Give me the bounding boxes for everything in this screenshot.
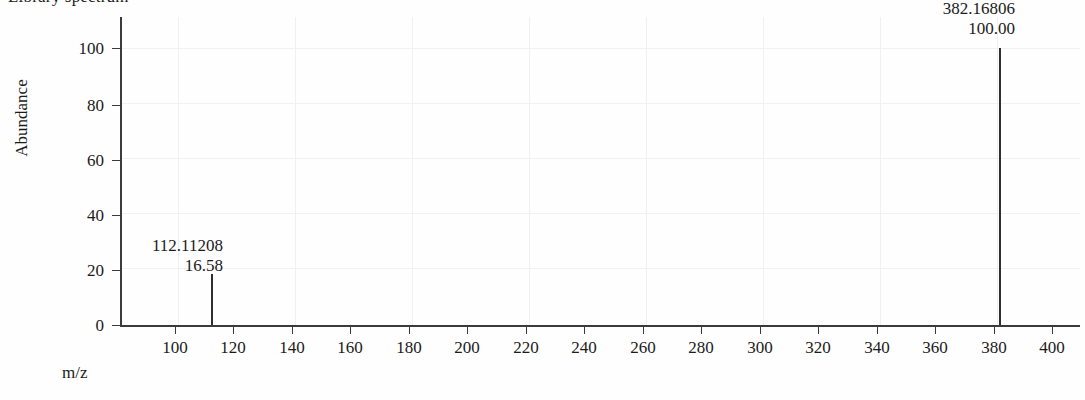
peak-mz-value: 112.11208 bbox=[108, 236, 223, 256]
y-axis-tick-label: 40 bbox=[44, 206, 104, 226]
x-axis-tick-label: 220 bbox=[496, 338, 556, 358]
x-axis-tick-label: 140 bbox=[262, 338, 322, 358]
x-axis-tick bbox=[935, 326, 936, 334]
gridline-vertical bbox=[529, 17, 530, 325]
y-axis-line bbox=[120, 17, 122, 326]
x-axis-tick-label: 200 bbox=[437, 338, 497, 358]
gridline-vertical bbox=[178, 17, 179, 325]
y-axis-tick bbox=[112, 48, 121, 49]
gridline-vertical bbox=[880, 17, 881, 325]
peak-intensity-value: 100.00 bbox=[900, 19, 1015, 39]
y-axis-tick-label: 0 bbox=[44, 316, 104, 336]
x-axis-tick-label: 280 bbox=[671, 338, 731, 358]
peak-stem bbox=[999, 48, 1001, 325]
x-axis-tick bbox=[233, 326, 234, 334]
gridline-vertical bbox=[295, 17, 296, 325]
gridline-horizontal bbox=[120, 103, 1080, 104]
y-axis-tick-label: 100 bbox=[44, 39, 104, 59]
x-axis-tick bbox=[994, 326, 995, 334]
page-title: Library spectrum bbox=[8, 0, 129, 7]
y-axis-tick-label: 60 bbox=[44, 151, 104, 171]
gridline-vertical bbox=[997, 17, 998, 325]
x-axis-tick-label: 320 bbox=[788, 338, 848, 358]
y-axis-tick bbox=[112, 160, 121, 161]
x-axis-tick bbox=[467, 326, 468, 334]
gridline-horizontal bbox=[120, 48, 1080, 49]
x-axis-tick bbox=[877, 326, 878, 334]
gridline-vertical bbox=[646, 17, 647, 325]
y-axis-tick bbox=[112, 325, 121, 326]
gridline-vertical bbox=[412, 17, 413, 325]
peak-label: 112.11208 16.58 bbox=[108, 236, 223, 276]
x-axis-tick-label: 400 bbox=[1022, 338, 1082, 358]
x-axis-tick-label: 160 bbox=[320, 338, 380, 358]
y-axis-tick-label: 20 bbox=[44, 261, 104, 281]
mass-spectrum-figure: Library spectrum 0 20 40 60 80 100 bbox=[0, 0, 1085, 400]
x-axis-tick bbox=[292, 326, 293, 334]
x-axis-tick-label: 240 bbox=[554, 338, 614, 358]
x-axis-tick bbox=[175, 326, 176, 334]
gridline-horizontal bbox=[120, 268, 1080, 269]
x-axis-tick bbox=[760, 326, 761, 334]
x-axis-tick-label: 120 bbox=[203, 338, 263, 358]
x-axis-tick bbox=[643, 326, 644, 334]
x-axis-tick-label: 360 bbox=[905, 338, 965, 358]
x-axis-tick bbox=[526, 326, 527, 334]
x-axis-tick-label: 340 bbox=[847, 338, 907, 358]
y-axis-tick-label: 80 bbox=[44, 96, 104, 116]
gridline-horizontal bbox=[120, 158, 1080, 159]
plot-area bbox=[120, 17, 1080, 325]
x-axis-tick bbox=[409, 326, 410, 334]
gridline-vertical bbox=[763, 17, 764, 325]
y-axis-tick bbox=[112, 215, 121, 216]
y-axis-tick bbox=[112, 105, 121, 106]
x-axis-tick bbox=[818, 326, 819, 334]
peak-label: 382.16806 100.00 bbox=[900, 0, 1015, 39]
x-axis-tick-label: 380 bbox=[964, 338, 1024, 358]
peak-mz-value: 382.16806 bbox=[900, 0, 1015, 19]
gridline-horizontal bbox=[120, 213, 1080, 214]
x-axis-tick bbox=[701, 326, 702, 334]
x-axis-tick bbox=[584, 326, 585, 334]
x-axis-tick bbox=[350, 326, 351, 334]
x-axis-tick-label: 180 bbox=[379, 338, 439, 358]
peak-intensity-value: 16.58 bbox=[108, 256, 223, 276]
y-axis-title: Abundance bbox=[12, 58, 32, 178]
x-axis-tick bbox=[1052, 326, 1053, 334]
x-axis-tick-label: 100 bbox=[145, 338, 205, 358]
x-axis-title: m/z bbox=[62, 363, 88, 383]
peak-stem bbox=[211, 274, 213, 325]
x-axis-tick-label: 260 bbox=[613, 338, 673, 358]
x-axis-tick-label: 300 bbox=[730, 338, 790, 358]
